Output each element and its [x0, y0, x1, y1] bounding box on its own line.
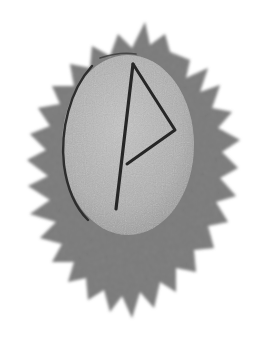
rune-stone-illustration: Rune stone with Wunjo rune on jagged sta… [0, 0, 267, 341]
rune-stone-graphic [0, 0, 267, 341]
stone [62, 55, 194, 235]
